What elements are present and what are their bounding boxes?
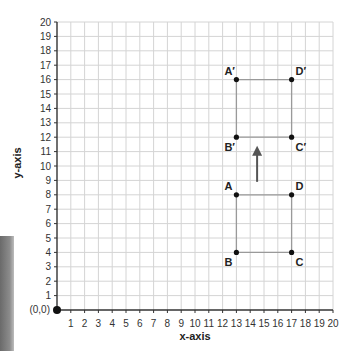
vertex-point (234, 192, 239, 197)
vertex-point (234, 135, 239, 140)
y-tick-label: 8 (45, 189, 51, 200)
x-tick-label: 20 (327, 318, 339, 329)
y-tick-label: 11 (41, 146, 52, 157)
vertex-label: B (224, 256, 232, 268)
y-tick-label: 2 (45, 276, 51, 287)
x-tick-label: 5 (123, 318, 129, 329)
y-tick-label: 3 (45, 261, 51, 272)
x-tick-label: 15 (258, 318, 270, 329)
x-tick-label: 17 (286, 318, 298, 329)
origin-label: (0,0) (29, 304, 50, 315)
translation-arrow-head-icon (252, 146, 262, 156)
vertex-point (234, 250, 239, 255)
x-tick-label: 18 (300, 318, 312, 329)
vertex-point (289, 192, 294, 197)
x-tick-label: 3 (96, 318, 102, 329)
vertex-label: C (296, 256, 304, 268)
vertex-label: A′ (224, 65, 235, 77)
x-axis-title: x-axis (179, 330, 210, 342)
y-tick-label: 6 (45, 218, 51, 229)
vertex-point (289, 250, 294, 255)
vertex-point (234, 77, 239, 82)
y-tick-label: 12 (40, 132, 52, 143)
y-axis-title: y-axis (11, 147, 23, 178)
x-tick-label: 1 (68, 318, 74, 329)
y-tick-label: 15 (40, 89, 52, 100)
y-tick-label: 10 (40, 161, 52, 172)
vertex-label: D′ (296, 65, 307, 77)
vertex-label: A (224, 180, 232, 192)
x-tick-label: 4 (109, 318, 115, 329)
y-tick-label: 4 (45, 247, 51, 258)
y-tick-label: 14 (40, 103, 52, 114)
vertex-label: C′ (296, 141, 307, 153)
y-tick-label: 16 (40, 74, 52, 85)
y-tick-label: 13 (40, 117, 52, 128)
origin-point (53, 306, 61, 314)
y-tick-label: 18 (40, 45, 52, 56)
y-tick-label: 9 (45, 175, 51, 186)
x-tick-label: 16 (272, 318, 284, 329)
x-tick-label: 14 (245, 318, 257, 329)
vertex-label: B′ (224, 141, 235, 153)
coordinate-grid: 1234567891011121314151617181920123456789… (0, 0, 358, 351)
x-tick-label: 2 (82, 318, 88, 329)
x-tick-label: 11 (204, 318, 215, 329)
x-tick-label: 7 (151, 318, 157, 329)
x-tick-label: 13 (231, 318, 243, 329)
x-tick-label: 12 (217, 318, 229, 329)
y-tick-label: 17 (40, 60, 52, 71)
x-tick-label: 6 (137, 318, 143, 329)
x-tick-label: 19 (314, 318, 326, 329)
y-tick-label: 19 (40, 31, 52, 42)
y-tick-label: 1 (45, 290, 51, 301)
vertex-point (289, 135, 294, 140)
y-tick-label: 7 (45, 204, 51, 215)
vertex-label: D (296, 180, 304, 192)
x-tick-label: 10 (189, 318, 201, 329)
x-tick-label: 8 (165, 318, 171, 329)
y-tick-label: 20 (40, 17, 52, 28)
vertex-point (289, 77, 294, 82)
y-tick-label: 5 (45, 233, 51, 244)
x-tick-label: 9 (178, 318, 184, 329)
